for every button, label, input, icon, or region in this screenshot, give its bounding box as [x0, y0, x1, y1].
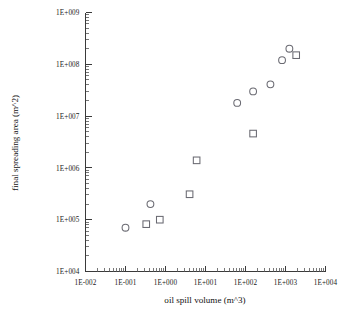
data-point-circle [250, 88, 257, 95]
data-point-circle [279, 57, 286, 64]
data-point-square [193, 157, 200, 164]
data-point-square [250, 130, 257, 137]
x-axis-title: oil spill volume (m^3) [164, 295, 245, 305]
y-tick-label: 1E+008 [56, 61, 80, 69]
y-axis: 1E+0091E+0081E+0071E+0061E+0051E+004 [56, 9, 91, 276]
data-point-circle [267, 81, 274, 88]
y-tick-label: 1E+009 [56, 9, 80, 17]
data-point-square [186, 191, 193, 198]
x-tick-label: 1E+000 [154, 279, 178, 287]
y-tick-label: 1E+007 [56, 113, 80, 121]
x-tick-label: 1E-002 [75, 279, 97, 287]
data-point-circle [122, 224, 129, 231]
x-axis: 1E-0021E-0011E+0001E+0011E+0021E+0031E+0… [75, 266, 338, 287]
chart-figure: 1E+0091E+0081E+0071E+0061E+0051E+004 1E-… [0, 0, 345, 320]
y-tick-label: 1E+004 [56, 268, 80, 276]
y-tick-label: 1E+006 [56, 165, 80, 173]
data-point-square [156, 216, 163, 223]
data-markers [122, 45, 299, 231]
data-point-square [143, 221, 150, 228]
axis-spines [86, 13, 326, 272]
data-point-circle [147, 201, 154, 208]
scatter-plot: 1E+0091E+0081E+0071E+0061E+0051E+004 1E-… [0, 0, 345, 320]
x-tick-label: 1E+004 [314, 279, 338, 287]
data-point-circle [286, 45, 293, 52]
x-tick-label: 1E+001 [194, 279, 218, 287]
x-tick-label: 1E-001 [115, 279, 137, 287]
y-tick-label: 1E+005 [56, 216, 80, 224]
data-point-circle [234, 99, 241, 106]
data-point-square [293, 52, 300, 59]
x-tick-label: 1E+002 [234, 279, 258, 287]
y-axis-title: final spreading area (m^2) [10, 95, 20, 191]
x-tick-label: 1E+003 [274, 279, 298, 287]
